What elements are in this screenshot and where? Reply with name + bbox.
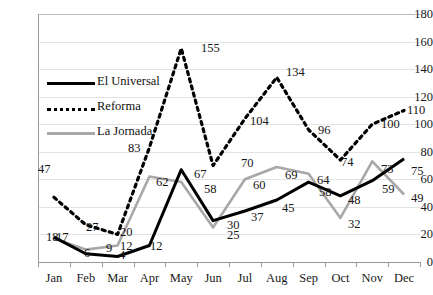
legend-swatch-el-universal (47, 82, 95, 85)
data-label: 48 (348, 194, 361, 206)
data-label: 110 (407, 104, 425, 116)
data-label: 83 (128, 142, 141, 154)
data-label: 100 (381, 118, 400, 130)
data-label: 60 (253, 179, 266, 191)
data-label: 17 (56, 231, 69, 243)
data-label: 25 (227, 229, 240, 241)
data-label: 12 (120, 240, 133, 252)
data-label: 67 (194, 168, 207, 180)
data-label: 37 (251, 211, 264, 223)
data-label: 62 (156, 176, 169, 188)
data-label: 74 (341, 156, 354, 168)
legend-label-el-universal: El Universal (97, 75, 160, 88)
data-label: 47 (38, 163, 51, 175)
data-label: 49 (411, 192, 424, 204)
data-label: 59 (382, 183, 395, 195)
data-label: 58 (319, 186, 332, 198)
data-label: 96 (318, 124, 331, 136)
data-label: 64 (317, 174, 330, 186)
data-label: 45 (282, 202, 295, 214)
legend-label-la-jornada: La Jornada (97, 125, 152, 138)
legend-label-reforma: Reforma (97, 100, 141, 113)
data-label: 104 (250, 115, 269, 127)
data-label: 73 (381, 163, 394, 175)
data-label: 27 (86, 221, 99, 233)
data-label: 6 (84, 247, 90, 259)
line-chart: 020406080100120140160180 JanFebMarAprMay… (0, 0, 433, 295)
data-label: 9 (106, 242, 112, 254)
data-label: 155 (201, 42, 220, 54)
data-label: 32 (348, 218, 361, 230)
data-label: 134 (286, 66, 305, 78)
legend-swatch-reforma (47, 108, 95, 111)
data-label: 12 (150, 240, 163, 252)
data-label: 20 (120, 226, 133, 238)
data-label: 75 (411, 165, 424, 177)
data-label: 69 (285, 169, 298, 181)
data-label: 58 (204, 183, 217, 195)
data-label: 70 (241, 157, 254, 169)
legend-swatch-la-jornada (47, 132, 95, 135)
